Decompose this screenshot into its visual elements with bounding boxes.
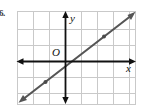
line-point-marker-1	[44, 80, 48, 84]
origin-label: O	[52, 46, 60, 58]
coordinate-graph: y x O	[0, 0, 145, 111]
line-point-marker-2	[102, 35, 106, 39]
graph-figure: 6.	[0, 0, 145, 111]
x-axis-label: x	[125, 62, 131, 74]
y-axis-label: y	[69, 12, 75, 24]
